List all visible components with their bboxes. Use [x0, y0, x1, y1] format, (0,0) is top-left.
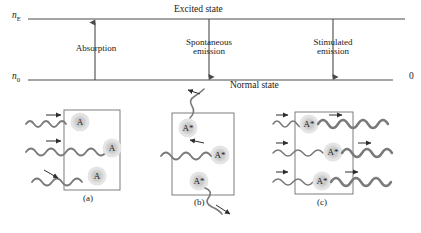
panel-c-atom-label-3: A* — [313, 176, 331, 186]
panel-c-amplified-wave-3 — [331, 178, 391, 186]
stimulated-emission-line2: emission — [296, 47, 370, 56]
panel-a-atom-label-1: A — [72, 117, 88, 127]
panel-a-incoming-wave-1 — [26, 121, 66, 127]
normal-state-label: Normal state — [230, 81, 279, 91]
excited-state-label: Excited state — [174, 5, 223, 15]
absorption-label: Absorption — [64, 44, 128, 53]
panel-c-amplified-wave-2 — [342, 149, 392, 157]
panel-a-atom-label-2: A — [104, 143, 120, 153]
spontaneous-emission-line2: emission — [168, 47, 250, 56]
panel-b-emitted-wave-2 — [161, 153, 211, 160]
panel-b-atom-label-3: A* — [190, 176, 208, 186]
panel-c-atom-label-2: A* — [324, 147, 342, 157]
axis-label-normal: n0 — [12, 72, 20, 83]
panel-b-caption: (b) — [194, 198, 205, 207]
panel-a-incoming-wave-2 — [26, 149, 106, 156]
stimulated-emission-label: Stimulated emission — [296, 38, 370, 57]
panel-b-atom-label-2: A* — [211, 150, 229, 160]
axis-label-excited: nE — [12, 11, 21, 22]
panel-b-emitted-wave-3 — [205, 188, 222, 214]
panel-a-direction-arrow-3 — [44, 170, 58, 178]
panel-b-emission-arrow-2 — [190, 140, 204, 143]
panel-a-atom-label-3: A — [89, 171, 105, 181]
figure-canvas — [0, 0, 421, 233]
spontaneous-emission-label: Spontaneous emission — [168, 38, 250, 57]
panel-c-incoming-wave-3 — [273, 179, 313, 185]
panel-a-caption: (a) — [83, 194, 93, 203]
zero-marker: 0 — [409, 72, 414, 82]
panel-c-atom-label-1: A* — [300, 119, 318, 129]
panel-c-caption: (c) — [317, 198, 327, 207]
panel-b-atom-label-1: A* — [179, 123, 197, 133]
panel-a-incoming-wave-3 — [32, 179, 82, 186]
panel-b-emission-arrow-1 — [188, 90, 200, 94]
panel-c-incoming-wave-2 — [273, 150, 323, 156]
laser-transitions-figure: nE n0 0 Excited state Normal state Absor… — [0, 0, 421, 233]
